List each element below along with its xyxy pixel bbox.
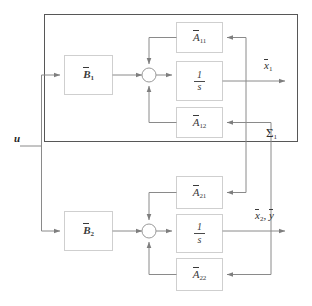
block-A22[interactable]: A22 <box>176 258 223 291</box>
block-diagram-canvas: u B1 B2 A11 1 s <box>0 0 312 306</box>
wire-x1-node-to-A21 <box>227 81 246 193</box>
block-A11[interactable]: A11 <box>176 22 223 53</box>
block-B2-label: B2 <box>83 224 94 238</box>
integrator-1-fraction: 1 s <box>194 70 205 93</box>
output-label-x2-y: x2, y <box>255 210 274 223</box>
diagram-wiring <box>0 0 312 306</box>
wire-x1-node-to-A11 <box>227 38 246 82</box>
integrator-1-denominator: s <box>194 82 205 93</box>
block-integrator-2[interactable]: 1 s <box>176 214 223 253</box>
wire-A22-to-sum2 <box>149 242 177 275</box>
block-B1-label: B1 <box>83 68 94 82</box>
wire-A11-to-sum1 <box>149 38 177 65</box>
input-label-u: u <box>14 133 20 144</box>
block-A11-label: A11 <box>193 31 206 45</box>
output-label-x1: x1 <box>264 60 272 73</box>
summing-junction-2 <box>142 224 156 238</box>
block-integrator-1[interactable]: 1 s <box>176 61 223 101</box>
subsystem-label-sigma1: Σ1 <box>266 126 277 141</box>
integrator-2-numerator: 1 <box>194 222 205 233</box>
block-A22-label: A22 <box>193 268 206 282</box>
integrator-2-fraction: 1 s <box>194 222 205 245</box>
summing-junction-1 <box>142 68 156 82</box>
wire-A12-to-sum1 <box>149 86 177 123</box>
block-A12-label: A12 <box>193 116 206 130</box>
block-A12[interactable]: A12 <box>176 107 223 138</box>
wire-x2-node-to-A22 <box>227 231 271 275</box>
block-A21-label: A21 <box>193 186 206 200</box>
integrator-1-numerator: 1 <box>194 70 205 81</box>
wire-A21-to-sum2 <box>149 193 177 221</box>
block-A21[interactable]: A21 <box>176 176 223 209</box>
integrator-2-denominator: s <box>194 235 205 246</box>
block-B2[interactable]: B2 <box>64 211 113 251</box>
block-B1[interactable]: B1 <box>64 55 113 95</box>
